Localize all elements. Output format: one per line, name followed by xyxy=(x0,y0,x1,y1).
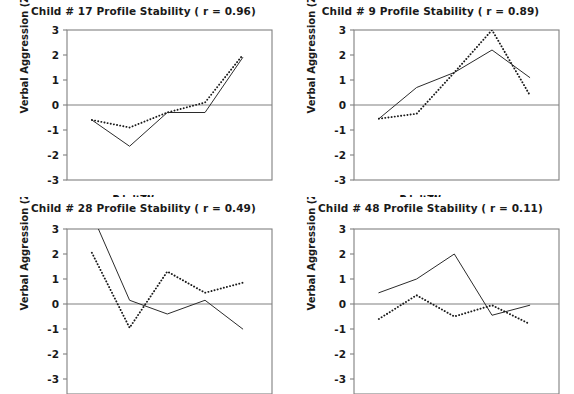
plot-frame xyxy=(354,229,559,394)
plot-frame xyxy=(67,229,272,394)
y-tick-label: -2 xyxy=(47,348,59,360)
y-tick-label: 1 xyxy=(52,74,59,86)
series-line-solid xyxy=(379,50,530,119)
y-tick-label: -1 xyxy=(47,124,59,136)
chart-panel-child-28: Child # 28 Profile Stability ( r = 0.49)… xyxy=(0,197,287,394)
y-tick-label: 3 xyxy=(339,24,346,36)
plot-area: 3210-1-2-3 xyxy=(0,0,287,197)
y-tick-label: 2 xyxy=(339,49,346,61)
y-tick-label: 3 xyxy=(52,223,59,235)
y-tick-label: 3 xyxy=(52,24,59,36)
chart-panel-child-9: Child # 9 Profile Stability ( r = 0.89) … xyxy=(287,0,574,197)
y-tick-label: 0 xyxy=(339,99,346,111)
y-tick-label: 0 xyxy=(52,99,59,111)
chart-panel-child-48: Child # 48 Profile Stability ( r = 0.11)… xyxy=(287,197,574,394)
y-tick-label: 2 xyxy=(339,248,346,260)
series-line-solid xyxy=(379,254,530,315)
y-tick-label: -3 xyxy=(334,373,346,385)
y-tick-label: 1 xyxy=(52,273,59,285)
y-tick-label: 2 xyxy=(52,49,59,61)
y-tick-label: -1 xyxy=(334,124,346,136)
y-tick-label: -3 xyxy=(334,174,346,186)
series-line-solid xyxy=(92,58,243,147)
y-tick-label: 3 xyxy=(339,223,346,235)
y-tick-label: -3 xyxy=(47,174,59,186)
y-tick-label: 0 xyxy=(339,298,346,310)
plot-area: 3210-1-2-3 xyxy=(287,0,574,197)
chart-panel-child-17: Child # 17 Profile Stability ( r = 0.96)… xyxy=(0,0,287,197)
y-tick-label: -2 xyxy=(334,149,346,161)
series-line-dotted xyxy=(379,295,530,324)
plot-area: 3210-1-2-3 xyxy=(287,197,574,394)
y-tick-label: 1 xyxy=(339,74,346,86)
y-tick-label: 1 xyxy=(339,273,346,285)
y-tick-label: -1 xyxy=(47,323,59,335)
y-tick-label: -1 xyxy=(334,323,346,335)
plot-area: 3210-1-2-3 xyxy=(0,197,287,394)
y-tick-label: -3 xyxy=(47,373,59,385)
series-line-dotted xyxy=(92,253,243,328)
y-tick-label: -2 xyxy=(334,348,346,360)
y-tick-label: 2 xyxy=(52,248,59,260)
y-tick-label: -2 xyxy=(47,149,59,161)
y-tick-label: 0 xyxy=(52,298,59,310)
series-line-solid xyxy=(92,214,243,329)
